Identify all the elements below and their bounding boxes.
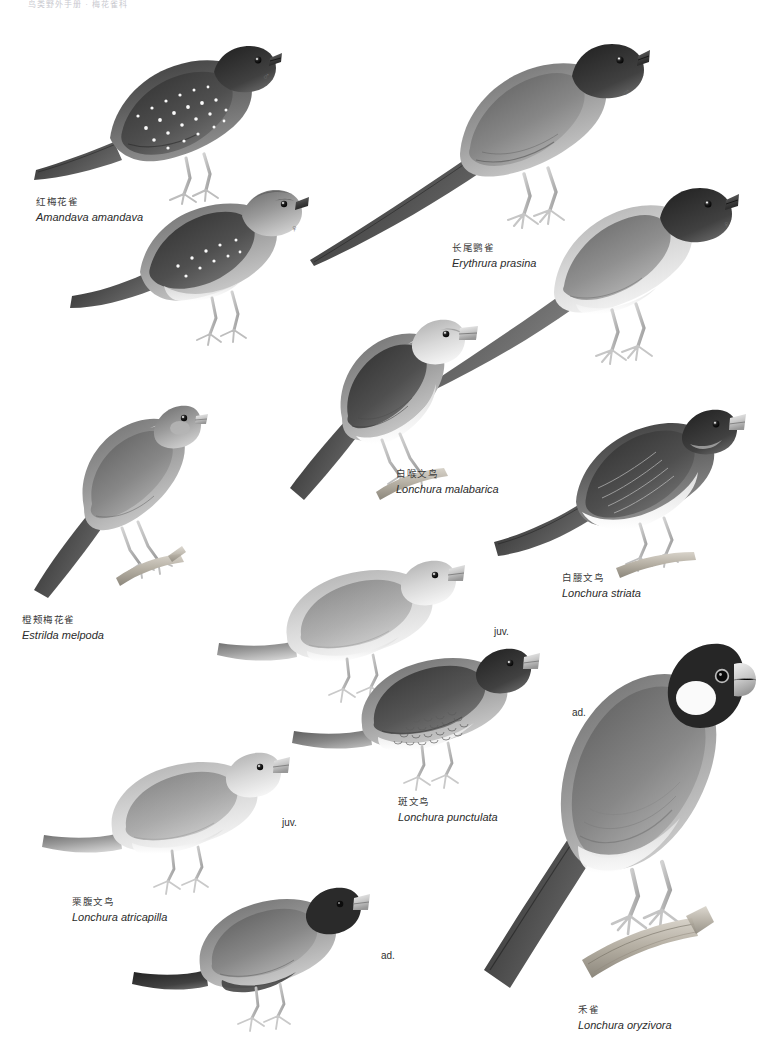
chinese-name-estrilda-melpoda: 橙颊梅花雀: [22, 614, 104, 627]
scientific-name-lonchura-striata: Lonchura striata: [562, 586, 641, 601]
chinese-name-lonchura-striata: 白腰文鸟: [562, 572, 641, 585]
annotation-amandava-female: ♀: [290, 222, 298, 234]
scientific-name-amandava-amandava: Amandava amandava: [36, 210, 143, 225]
bird-lonchura-oryzivora: [470, 640, 745, 1005]
annotation-punctulata-juvenile: juv.: [494, 626, 509, 637]
caption-lonchura-malabarica: 白喉文鸟 Lonchura malabarica: [396, 468, 499, 496]
bird-estrilda-melpoda: [18, 390, 203, 615]
annotation-amandava-male: ♂: [262, 70, 270, 82]
chinese-name-lonchura-punctulata: 斑文鸟: [398, 796, 498, 809]
chinese-name-lonchura-malabarica: 白喉文鸟: [396, 468, 499, 481]
annotation-atricapilla-juvenile: juv.: [282, 817, 297, 828]
bird-lonchura-striata: [490, 392, 740, 587]
scientific-name-estrilda-melpoda: Estrilda melpoda: [22, 628, 104, 643]
chinese-name-lonchura-oryzivora: 禾雀: [578, 1004, 672, 1017]
caption-erythrura-prasina: 长尾鹦雀 Erythrura prasina: [452, 242, 536, 270]
caption-lonchura-oryzivora: 禾雀 Lonchura oryzivora: [578, 1004, 672, 1032]
annotation-punctulata-adult: ad.: [572, 707, 586, 718]
scientific-name-lonchura-oryzivora: Lonchura oryzivora: [578, 1018, 672, 1033]
chinese-name-amandava-amandava: 红梅花雀: [36, 196, 143, 209]
caption-lonchura-striata: 白腰文鸟 Lonchura striata: [562, 572, 641, 600]
scientific-name-lonchura-malabarica: Lonchura malabarica: [396, 482, 499, 497]
caption-lonchura-atricapilla: 栗腹文鸟 Lonchura atricapilla: [72, 896, 167, 924]
annotation-prasina-female: ♀: [722, 218, 730, 230]
caption-amandava-amandava: 红梅花雀 Amandava amandava: [36, 196, 143, 224]
scientific-name-erythrura-prasina: Erythrura prasina: [452, 256, 536, 271]
scientific-name-lonchura-atricapilla: Lonchura atricapilla: [72, 910, 167, 925]
caption-lonchura-punctulata: 斑文鸟 Lonchura punctulata: [398, 796, 498, 824]
chinese-name-lonchura-atricapilla: 栗腹文鸟: [72, 896, 167, 909]
annotation-atricapilla-adult: ad.: [381, 950, 395, 961]
scientific-name-lonchura-punctulata: Lonchura punctulata: [398, 810, 498, 825]
annotation-prasina-male: ♂: [622, 86, 630, 98]
illustration-plate: 鸟类野外手册 · 梅花雀科: [0, 0, 763, 1049]
chinese-name-erythrura-prasina: 长尾鹦雀: [452, 242, 536, 255]
caption-estrilda-melpoda: 橙颊梅花雀 Estrilda melpoda: [22, 614, 104, 642]
running-head: 鸟类野外手册 · 梅花雀科: [28, 0, 128, 9]
